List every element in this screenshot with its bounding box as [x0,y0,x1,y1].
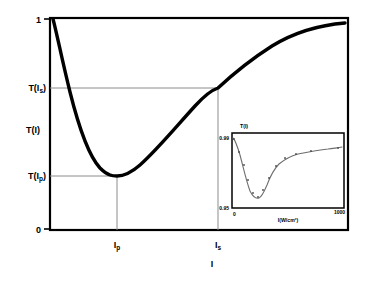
t-is-close: ) [43,83,46,93]
inset-xtick-right: 1000 [334,209,345,215]
main-y-axis-title: T(I) [26,125,40,135]
ytick-label-t-ip: T(Ip) [28,171,46,183]
inset-x-axis-title: I(W/cm²) [278,217,299,223]
inset-y-axis-title: T(I) [240,123,248,129]
ytick-label-bottom: 0 [36,225,41,235]
inset-ytick-bottom: 0.95 [219,205,229,211]
ytick-label-t-is: T(Is) [28,83,46,94]
t-ip-base: T(I [28,171,39,181]
xtick-label-is: Is [215,240,222,251]
inset-plot-frame [232,133,344,208]
inset-xtick-left: 0 [233,211,236,217]
inset-ytick-top: 0.99 [219,135,229,141]
t-ip-close: ) [43,171,46,181]
transmission-figure: 1 0 T(Is) T(Ip) T(I) Ip Is I T(I) [0,0,368,283]
main-x-axis-title: I [211,259,214,269]
ytick-label-top: 1 [36,15,41,25]
figure-container: 1 0 T(Is) T(Ip) T(I) Ip Is I T(I) [0,0,368,283]
is-subscript: s [217,244,221,251]
ip-subscript: p [116,244,120,252]
xtick-label-ip: Ip [114,240,121,252]
t-is-base: T(I [28,83,39,93]
